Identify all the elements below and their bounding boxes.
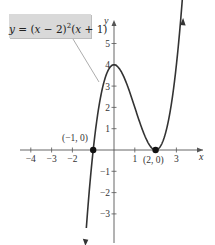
y-tick-label: 3 [105, 82, 110, 92]
y-axis-label: y [103, 15, 109, 26]
x-tick-label: −3 [47, 154, 57, 164]
y-tick-label: 1 [105, 124, 110, 134]
y-tick-label: −2 [100, 188, 110, 198]
x-tick-label: 3 [174, 154, 179, 164]
y-tick-label: −1 [100, 167, 110, 177]
function-graph: xy−4−3−213−3−2−112345(−1, 0)(2, 0) [0, 0, 215, 245]
intercept-point [152, 147, 158, 153]
y-tick-label: −3 [100, 209, 110, 219]
x-tick-label: 1 [132, 154, 137, 164]
x-tick-label: −4 [26, 154, 36, 164]
equation-connector [73, 39, 99, 82]
point-label: (−1, 0) [62, 133, 88, 144]
x-axis-label: x [198, 151, 204, 162]
x-tick-label: −2 [67, 154, 77, 164]
y-tick-label: 5 [105, 39, 110, 49]
intercept-point [90, 147, 96, 153]
y-tick-label: 2 [105, 103, 110, 113]
y-axis-arrow-icon [112, 20, 117, 26]
point-label: (2, 0) [143, 155, 164, 166]
curve-arrow-down-icon [83, 239, 89, 245]
